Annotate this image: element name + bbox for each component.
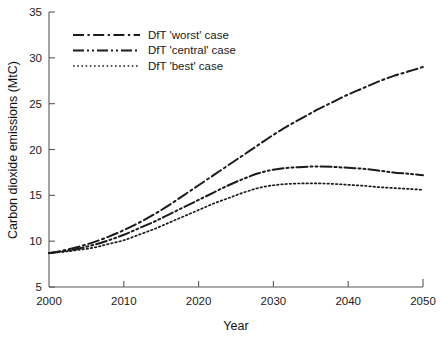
y-axis-ticks: 5101520253035 [29, 6, 55, 293]
legend-label-0: DfT 'worst' case [148, 29, 229, 41]
y-tick-label: 25 [29, 98, 42, 110]
x-tick-label: 2030 [261, 295, 287, 307]
y-tick-label: 20 [29, 144, 42, 156]
line-chart: 5101520253035 200020102020203020402050 D… [0, 0, 442, 339]
chart-figure: 5101520253035 200020102020203020402050 D… [0, 0, 442, 339]
chart-legend: DfT 'worst' caseDfT 'central' caseDfT 'b… [73, 29, 236, 72]
x-tick-label: 2040 [335, 295, 361, 307]
legend-label-2: DfT 'best' case [148, 60, 223, 72]
y-tick-label: 10 [29, 235, 42, 247]
x-tick-label: 2010 [111, 295, 137, 307]
y-tick-label: 15 [29, 189, 42, 201]
y-axis-title: Carbon dioxide emissions (MtC) [6, 61, 20, 239]
x-axis-title: Year [223, 319, 248, 333]
x-tick-label: 2050 [410, 295, 436, 307]
y-tick-label: 5 [36, 281, 42, 293]
series-line-0 [49, 67, 423, 253]
series-line-2 [49, 183, 423, 253]
y-tick-label: 30 [29, 52, 42, 64]
y-tick-label: 35 [29, 6, 42, 18]
x-tick-label: 2020 [186, 295, 212, 307]
legend-label-1: DfT 'central' case [148, 44, 236, 56]
series-line-1 [49, 166, 423, 253]
x-axis-ticks: 200020102020203020402050 [36, 281, 436, 307]
series-group [49, 67, 423, 253]
x-tick-label: 2000 [36, 295, 62, 307]
